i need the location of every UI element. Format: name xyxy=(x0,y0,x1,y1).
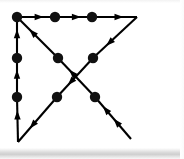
node-top-mid-right-node[interactable] xyxy=(87,12,97,22)
node-left-upper-node[interactable] xyxy=(12,53,22,63)
figure-root: Directed graph with ten vertices Square … xyxy=(0,0,184,159)
node-top-left-corner-node[interactable] xyxy=(12,12,22,22)
node-inner-upper-right-node[interactable] xyxy=(88,53,98,63)
node-left-lower-node[interactable] xyxy=(12,92,22,102)
canvas-background xyxy=(0,0,184,159)
node-inner-upper-left-node[interactable] xyxy=(53,53,63,63)
directed-graph-canvas xyxy=(0,0,184,159)
node-inner-lower-left-node[interactable] xyxy=(52,92,62,102)
node-top-mid-left-node[interactable] xyxy=(50,12,60,22)
node-inner-lower-right-node[interactable] xyxy=(90,92,100,102)
